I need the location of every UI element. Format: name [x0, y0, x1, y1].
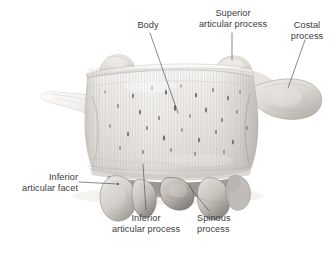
label-body-line1: Body	[124, 20, 172, 31]
label-spinous-process-line2: process	[197, 224, 257, 235]
label-costal-process: Costal process	[282, 20, 332, 42]
label-inferior-articular-process-line1: Inferior	[98, 213, 194, 224]
label-spinous-process: Spinous process	[197, 213, 257, 235]
label-superior-articular-process: Superior articular process	[183, 8, 283, 30]
label-costal-process-line1: Costal	[282, 20, 332, 31]
label-inferior-articular-facet: Inferior articular facet	[4, 172, 78, 194]
label-inferior-articular-process: Inferior articular process	[98, 213, 194, 235]
label-spinous-process-line1: Spinous	[197, 213, 257, 224]
label-inferior-articular-process-line2: articular process	[98, 224, 194, 235]
label-inferior-articular-facet-line2: articular facet	[4, 183, 78, 194]
label-superior-articular-process-line1: Superior	[183, 8, 283, 19]
label-superior-articular-process-line2: articular process	[183, 19, 283, 30]
vertebral-body	[80, 64, 264, 182]
anatomical-figure: Body Superior articular process Costal p…	[0, 0, 336, 253]
label-inferior-articular-facet-line1: Inferior	[4, 172, 78, 183]
label-costal-process-line2: process	[282, 31, 332, 42]
label-body: Body	[124, 20, 172, 31]
inferior-articular-process-far-right	[226, 176, 251, 211]
